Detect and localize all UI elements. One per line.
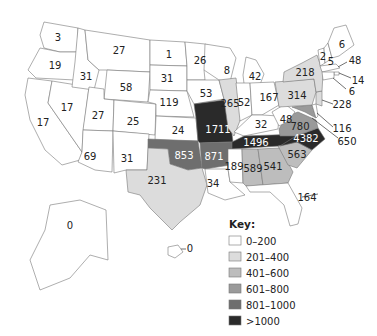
- value-label-alabama: 589: [243, 163, 262, 174]
- us-choropleth-map: 3191717312758272569311311192485323126531…: [0, 0, 377, 336]
- value-label-washington: 3: [55, 32, 61, 43]
- legend-label-5: >1000: [246, 316, 280, 327]
- value-label-new-jersey: 228: [332, 99, 351, 110]
- value-label-south-dakota: 31: [161, 73, 174, 84]
- value-label-arkansas: 871: [204, 151, 223, 162]
- value-label-vermont: 2: [320, 51, 326, 62]
- value-label-georgia: 541: [263, 161, 282, 172]
- value-label-new-hampshire: 5: [328, 56, 334, 67]
- value-label-new-york: 218: [295, 67, 314, 78]
- legend-label-1: 201–400: [246, 252, 289, 263]
- value-label-colorado: 25: [127, 116, 140, 127]
- value-label-oregon: 19: [49, 60, 62, 71]
- value-label-idaho: 31: [80, 71, 93, 82]
- value-label-louisiana: 34: [207, 178, 220, 189]
- value-label-iowa: 53: [200, 88, 213, 99]
- value-label-north-dakota: 1: [166, 49, 172, 60]
- value-label-new-mexico: 31: [121, 153, 134, 164]
- legend-title: Key:: [229, 218, 255, 230]
- state-new-jersey: [316, 91, 322, 106]
- value-label-california: 17: [37, 117, 50, 128]
- legend-swatch-2: [229, 268, 241, 277]
- value-label-utah: 27: [92, 110, 105, 121]
- legend-label-2: 401–600: [246, 268, 289, 279]
- value-label-texas: 231: [147, 175, 166, 186]
- value-label-hawaii: 0: [187, 243, 193, 254]
- value-label-michigan: 42: [249, 71, 262, 82]
- value-label-nevada: 17: [61, 102, 74, 113]
- state-rhode-island: [334, 72, 339, 75]
- value-label-missouri: 1711: [205, 124, 230, 135]
- value-label-pennsylvania: 314: [287, 90, 306, 101]
- state-wisconsin: [204, 44, 236, 82]
- leader-line-massachusetts: [338, 62, 347, 67]
- leader-line-delaware: [317, 113, 333, 127]
- leader-line-connecticut: [333, 78, 346, 89]
- state-alaska: [30, 200, 108, 290]
- value-label-nebraska: 119: [159, 97, 178, 108]
- legend-swatch-3: [229, 284, 241, 293]
- value-label-delaware: 116: [332, 123, 351, 134]
- value-label-montana: 27: [113, 45, 126, 56]
- value-label-wyoming: 58: [120, 82, 133, 93]
- value-label-west-virginia: 48: [280, 114, 293, 125]
- legend-swatch-5: [229, 316, 241, 325]
- value-label-connecticut: 6: [349, 86, 355, 97]
- value-label-wisconsin: 8: [224, 65, 230, 76]
- value-label-minnesota: 26: [194, 55, 207, 66]
- value-label-virginia: 780: [290, 121, 309, 132]
- legend: Key: 0–200201–400401–600601–800801–1000>…: [229, 218, 296, 327]
- value-label-north-carolina: 4382: [293, 133, 318, 144]
- value-label-indiana: 52: [238, 97, 251, 108]
- value-label-florida: 164: [297, 192, 316, 203]
- state-hawaii: [168, 245, 183, 258]
- value-label-maine: 6: [339, 39, 345, 50]
- legend-swatch-1: [229, 252, 241, 261]
- value-label-south-carolina: 563: [287, 149, 306, 160]
- value-label-kansas: 24: [172, 125, 185, 136]
- value-label-oklahoma: 853: [174, 150, 193, 161]
- legend-swatch-4: [229, 300, 241, 309]
- leader-line-rhode-island: [339, 73, 351, 78]
- value-label-tennessee: 1496: [243, 137, 268, 148]
- value-label-ohio: 167: [259, 92, 278, 103]
- leader-line-new-jersey: [322, 100, 333, 104]
- state-connecticut: [322, 72, 334, 80]
- value-label-alaska: 0: [67, 220, 73, 231]
- value-label-mississippi: 189: [224, 161, 243, 172]
- value-label-rhode-island: 14: [352, 75, 365, 86]
- legend-label-4: 801–1000: [246, 300, 296, 311]
- value-label-maryland: 650: [337, 136, 356, 147]
- legend-label-0: 0–200: [246, 236, 276, 247]
- value-label-kentucky: 32: [255, 119, 268, 130]
- value-label-massachusetts: 48: [349, 55, 362, 66]
- legend-label-3: 601–800: [246, 284, 289, 295]
- value-label-arizona: 69: [84, 151, 97, 162]
- legend-swatch-0: [229, 236, 241, 245]
